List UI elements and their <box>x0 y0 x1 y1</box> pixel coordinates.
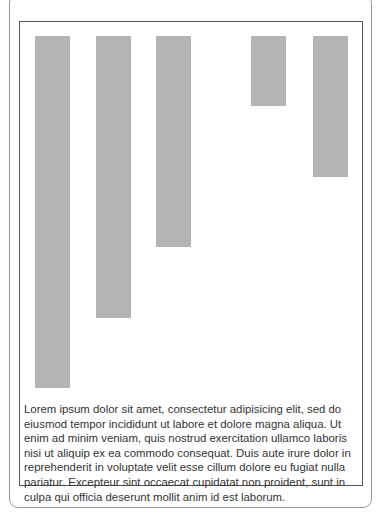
caption-text: Lorem ipsum dolor sit amet, consectetur … <box>24 402 362 504</box>
bar-5 <box>313 36 348 177</box>
bar-3 <box>156 36 191 247</box>
bar-4 <box>251 36 286 106</box>
bar-1 <box>35 36 70 388</box>
bar-2 <box>96 36 131 318</box>
